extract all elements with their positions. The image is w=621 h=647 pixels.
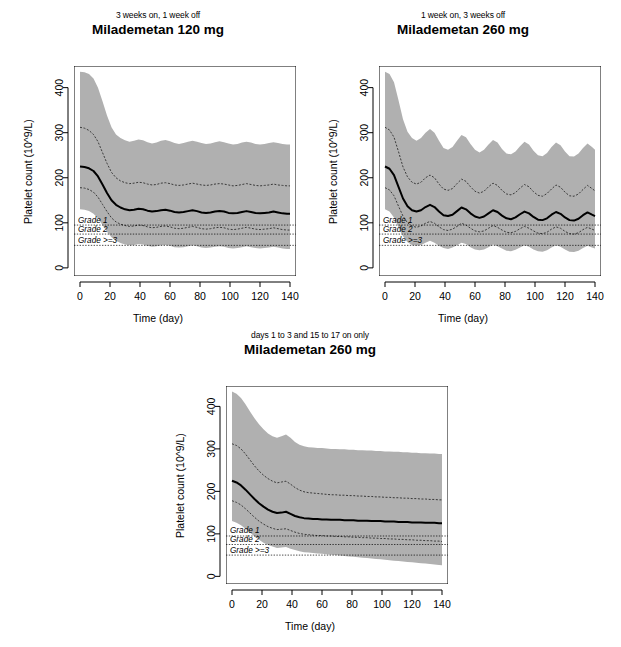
x-tick-label-1: 20 [409,290,421,302]
y-tick-label-3: 300 [358,124,370,142]
platelet-count-simulation-figure: 3 weeks on, 1 week offMilademetan 120 mg… [0,0,621,647]
y-tick-label-1: 100 [53,214,65,232]
grade-label-2: Grade 2 [230,535,260,544]
x-tick-label-6: 120 [556,290,574,302]
panel-260mg-1on3off: 1 week on, 3 weeks offMilademetan 260 mg… [313,8,613,338]
x-tick-label-0: 0 [229,598,235,610]
prediction-interval-band [80,72,290,249]
prediction-interval-band [232,392,442,566]
y-tick-label-2: 200 [205,482,217,500]
panel-subtitle: days 1 to 3 and 15 to 17 on only [160,330,460,340]
y-axis-title: Platelet count (10^9/L) [22,119,34,224]
panel-title: Milademetan 260 mg [313,22,613,37]
x-tick-label-4: 80 [346,598,358,610]
x-tick-label-1: 20 [256,598,268,610]
y-tick-label-2: 200 [358,169,370,187]
x-tick-label-2: 40 [286,598,298,610]
y-tick-label-1: 100 [358,214,370,232]
x-tick-label-7: 140 [586,290,604,302]
x-tick-label-3: 60 [164,290,176,302]
y-tick-label-3: 300 [53,124,65,142]
x-axis-title: Time (day) [8,312,308,324]
y-tick-label-0: 0 [358,265,370,271]
x-tick-label-6: 120 [403,598,421,610]
x-tick-label-0: 0 [77,290,83,302]
y-tick-label-0: 0 [53,265,65,271]
y-tick-label-0: 0 [205,573,217,579]
x-tick-label-2: 40 [439,290,451,302]
grade-label-2: Grade 2 [383,225,413,234]
x-tick-label-6: 120 [251,290,269,302]
panel-subtitle: 1 week on, 3 weeks off [313,10,613,20]
grade-label-3: Grade >=3 [78,236,118,245]
y-tick-label-3: 300 [205,440,217,458]
plot-canvas: Grade 1Grade 2Grade >=301002003004000204… [8,8,308,338]
x-tick-label-3: 60 [469,290,481,302]
grade-label-1: Grade 1 [78,216,108,225]
panel-title: Milademetan 120 mg [8,22,308,37]
x-tick-label-1: 20 [104,290,116,302]
y-axis-title: Platelet count (10^9/L) [327,119,339,224]
grade-label-1: Grade 1 [383,216,413,225]
y-tick-label-4: 400 [358,79,370,97]
y-tick-label-2: 200 [53,169,65,187]
plot-canvas: Grade 1Grade 2Grade >=301002003004000204… [160,328,460,646]
x-tick-label-7: 140 [281,290,299,302]
plot-canvas: Grade 1Grade 2Grade >=301002003004000204… [313,8,613,338]
x-axis-title: Time (day) [313,312,613,324]
x-tick-label-5: 100 [373,598,391,610]
y-tick-label-4: 400 [53,79,65,97]
x-tick-label-0: 0 [382,290,388,302]
panel-title: Milademetan 260 mg [160,342,460,357]
x-tick-label-7: 140 [433,598,451,610]
y-axis-title: Platelet count (10^9/L) [174,433,186,538]
x-tick-label-4: 80 [499,290,511,302]
x-tick-label-5: 100 [221,290,239,302]
grade-label-2: Grade 2 [78,225,108,234]
x-tick-label-5: 100 [526,290,544,302]
x-tick-label-2: 40 [134,290,146,302]
x-tick-label-3: 60 [316,598,328,610]
x-tick-label-4: 80 [194,290,206,302]
y-tick-label-1: 100 [205,525,217,543]
grade-label-3: Grade >=3 [230,546,270,555]
panel-120mg-3on1off: 3 weeks on, 1 week offMilademetan 120 mg… [8,8,308,338]
panel-subtitle: 3 weeks on, 1 week off [8,10,308,20]
grade-label-3: Grade >=3 [383,236,423,245]
x-axis-title: Time (day) [160,620,460,632]
y-tick-label-4: 400 [205,397,217,415]
panel-260mg-days1to3-15to17: days 1 to 3 and 15 to 17 on onlyMilademe… [160,328,460,646]
